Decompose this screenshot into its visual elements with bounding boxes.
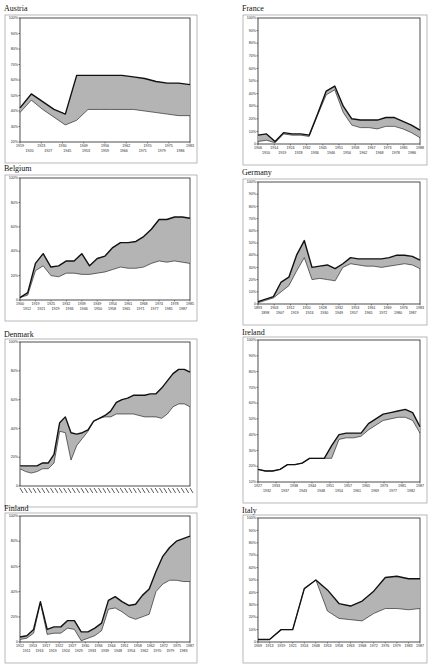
x-tick-label: 1953 xyxy=(323,644,331,648)
x-tick-label: 1968 xyxy=(358,644,366,648)
x-tick-label: 1979 xyxy=(393,644,401,648)
y-tick-label: 40% xyxy=(249,591,257,595)
x-tick-label: 1919 xyxy=(277,644,285,648)
y-tick-label: 30% xyxy=(249,603,257,607)
x-tick-label: 1983 xyxy=(404,644,412,648)
x-tick-label: 1921 xyxy=(289,644,297,648)
y-tick-label: 20% xyxy=(249,615,257,619)
x-tick-label: 1976 xyxy=(381,644,389,648)
x-tick-label: 1987 xyxy=(416,644,424,648)
y-tick-label: 100% xyxy=(247,516,257,520)
y-tick-label: 60% xyxy=(249,566,257,570)
y-tick-label: 50% xyxy=(249,578,257,582)
y-tick-label: 10% xyxy=(249,628,257,632)
x-tick-label: 1963 xyxy=(347,644,355,648)
y-tick-label: 70% xyxy=(249,553,257,557)
x-tick-label: 1909 xyxy=(254,644,262,648)
y-tick-label: 80% xyxy=(249,541,257,545)
x-tick-label: 1948 xyxy=(312,644,320,648)
x-tick-label: 1924 xyxy=(300,644,308,648)
x-tick-label: 1913 xyxy=(266,644,274,648)
x-tick-label: 1958 xyxy=(335,644,343,648)
x-tick-label: 1972 xyxy=(370,644,378,648)
chart-italy: 010%20%30%40%50%60%70%80%90%100%19091913… xyxy=(0,0,437,665)
y-tick-label: 90% xyxy=(249,529,257,533)
